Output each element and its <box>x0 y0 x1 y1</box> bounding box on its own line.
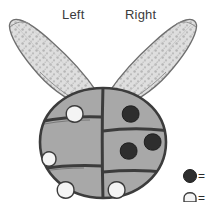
light-spot-2 <box>42 152 56 166</box>
dark-spot-3 <box>120 143 137 159</box>
legend-light-equals: = <box>198 192 205 202</box>
dark-spot-2 <box>144 134 161 150</box>
dark-spot-1 <box>122 106 139 122</box>
legend <box>184 170 197 203</box>
legend-light-circle-icon <box>184 193 196 202</box>
bilateral-structure-diagram <box>0 0 210 202</box>
figure-root: Left Right = = <box>0 0 210 202</box>
light-spot-3 <box>57 182 74 198</box>
legend-dark-equals: = <box>198 170 205 182</box>
label-left: Left <box>62 8 84 21</box>
main-body <box>34 86 172 200</box>
label-right: Right <box>125 8 156 21</box>
light-spot-4 <box>108 182 125 198</box>
midline-divider <box>102 86 103 200</box>
light-spot-1 <box>66 106 83 122</box>
legend-dark-circle-icon <box>184 170 197 183</box>
